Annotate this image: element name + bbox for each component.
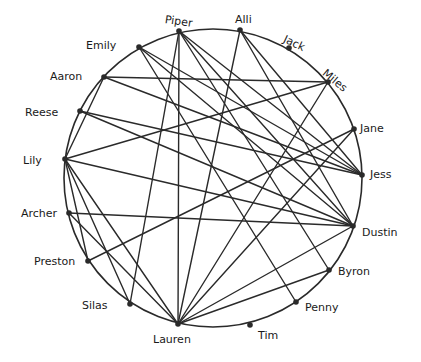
edge-miles-aaron bbox=[104, 77, 328, 82]
node-dustin bbox=[350, 223, 356, 229]
node-label-alli: Alli bbox=[235, 14, 252, 25]
edge-archer-dustin bbox=[69, 213, 353, 226]
edge-lily-dustin bbox=[65, 159, 353, 226]
node-silas bbox=[127, 301, 133, 307]
node-lily bbox=[62, 156, 68, 162]
node-label-penny: Penny bbox=[305, 302, 338, 313]
node-label-piper: Piper bbox=[164, 14, 193, 29]
edge-group bbox=[65, 30, 362, 324]
node-label-silas: Silas bbox=[82, 300, 108, 311]
node-emily bbox=[136, 44, 142, 50]
node-label-lily: Lily bbox=[23, 155, 42, 166]
node-byron bbox=[326, 267, 332, 273]
node-aaron bbox=[101, 74, 107, 80]
node-label-aaron: Aaron bbox=[50, 71, 82, 82]
node-penny bbox=[293, 299, 299, 305]
node-label-emily: Emily bbox=[86, 40, 116, 51]
network-graph bbox=[0, 0, 421, 362]
node-label-preston: Preston bbox=[34, 256, 75, 267]
node-tim bbox=[247, 322, 253, 328]
edge-jane-lauren bbox=[178, 129, 354, 324]
node-label-archer: Archer bbox=[21, 208, 57, 219]
node-label-jane: Jane bbox=[360, 123, 384, 134]
node-label-lauren: Lauren bbox=[153, 334, 191, 345]
node-jane bbox=[351, 126, 357, 132]
edge-reese-dustin bbox=[80, 111, 353, 226]
node-label-dustin: Dustin bbox=[362, 227, 398, 238]
outer-circle bbox=[64, 29, 362, 327]
edge-piper-lauren bbox=[178, 31, 179, 324]
node-alli bbox=[237, 27, 243, 33]
node-archer bbox=[66, 210, 72, 216]
node-preston bbox=[85, 258, 91, 264]
node-label-tim: Tim bbox=[258, 330, 278, 341]
edge-lauren-byron bbox=[178, 270, 329, 324]
node-label-jess: Jess bbox=[370, 169, 391, 180]
node-jess bbox=[359, 172, 365, 178]
node-piper bbox=[176, 28, 182, 34]
edge-lily-preston bbox=[65, 159, 88, 261]
node-label-byron: Byron bbox=[338, 266, 370, 277]
node-reese bbox=[77, 108, 83, 114]
node-lauren bbox=[175, 321, 181, 327]
node-label-reese: Reese bbox=[25, 107, 58, 118]
